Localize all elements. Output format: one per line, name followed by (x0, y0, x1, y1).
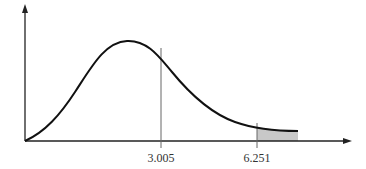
y-axis-arrow-icon (22, 4, 28, 13)
chi-square-diagram: 3.005 6.251 (0, 0, 366, 169)
tick-label-3005: 3.005 (148, 151, 175, 165)
tick-label-6251: 6.251 (244, 151, 271, 165)
x-axis-arrow-icon (343, 138, 352, 144)
